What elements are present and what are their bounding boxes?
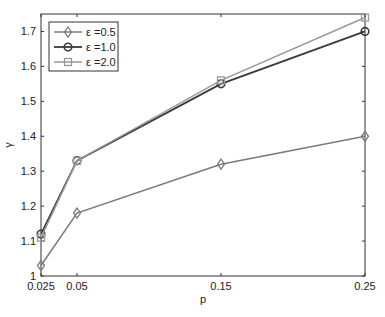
y-tick-label: 1.7 <box>21 25 36 37</box>
x-tick-label: 0.25 <box>354 280 375 292</box>
y-axis-label: γ <box>2 142 14 148</box>
y-tick-label: 1.3 <box>21 165 36 177</box>
legend-label: ε =0.5 <box>86 26 116 38</box>
y-tick-label: 1.1 <box>21 235 36 247</box>
line-chart: 0.0250.050.150.2511.11.21.31.41.51.61.7 … <box>0 0 385 317</box>
legend-label: ε =2.0 <box>86 56 116 68</box>
legend-label: ε =1.0 <box>86 41 116 53</box>
y-tick-label: 1.5 <box>21 95 36 107</box>
legend: ε =0.5ε =1.0ε =2.0 <box>49 22 118 71</box>
y-tick-label: 1.4 <box>21 130 36 142</box>
x-tick-label: 0.15 <box>210 280 231 292</box>
y-tick-label: 1.6 <box>21 60 36 72</box>
x-axis-label: p <box>200 293 206 305</box>
y-tick-label: 1.2 <box>21 200 36 212</box>
y-tick-label: 1 <box>30 270 36 282</box>
x-tick-label: 0.05 <box>66 280 87 292</box>
